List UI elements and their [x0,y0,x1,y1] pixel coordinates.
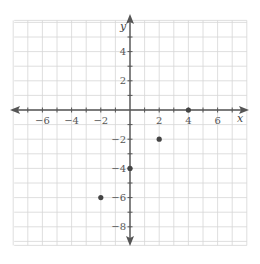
x-tick-label: 4 [185,115,191,126]
data-point [157,137,162,142]
y-tick-label: −2 [111,134,126,145]
x-tick-label: 6 [214,115,220,126]
data-point [98,195,103,200]
x-tick-label: −4 [64,115,79,126]
x-tick-label: 2 [156,115,162,126]
y-tick-label: 4 [120,46,126,57]
y-tick-label: −6 [111,192,126,203]
x-tick-label: −2 [93,115,108,126]
data-point [127,166,132,171]
axes [10,14,249,246]
x-tick-label: −6 [35,115,50,126]
y-tick-label: 2 [120,75,126,86]
coordinate-plane: −6−4−224642−2−4−6−8 x y [0,0,260,264]
x-axis-label: x [237,112,244,125]
y-tick-label: −8 [111,221,126,232]
y-tick-label: −4 [111,163,126,174]
y-axis-label: y [119,20,127,33]
data-point [186,107,191,112]
